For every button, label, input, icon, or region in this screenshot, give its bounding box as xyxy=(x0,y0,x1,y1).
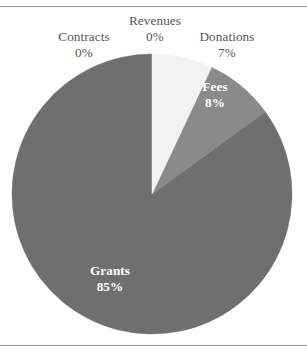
figure-bottom-rule xyxy=(0,345,307,346)
pie-label-grants: Grants 85% xyxy=(64,263,156,295)
pie-chart-plot-area: Revenues 0% Contracts 0% Donations 7% Fe… xyxy=(0,7,307,345)
pie-label-fees-name: Fees xyxy=(182,79,248,95)
pie-label-donations: Donations 7% xyxy=(168,29,286,61)
pie-label-fees-value: 8% xyxy=(182,95,248,111)
pie-label-revenues-name: Revenues xyxy=(100,13,210,29)
pie-label-contracts-name: Contracts xyxy=(30,29,138,45)
pie-label-grants-name: Grants xyxy=(64,263,156,279)
pie-label-contracts-value: 0% xyxy=(30,45,138,61)
pie-label-donations-value: 7% xyxy=(168,45,286,61)
pie-label-contracts: Contracts 0% xyxy=(30,29,138,61)
pie-label-fees: Fees 8% xyxy=(182,79,248,111)
pie-label-grants-value: 85% xyxy=(64,279,156,295)
pie-chart-figure: Revenues 0% Contracts 0% Donations 7% Fe… xyxy=(0,0,307,352)
pie-label-donations-name: Donations xyxy=(168,29,286,45)
